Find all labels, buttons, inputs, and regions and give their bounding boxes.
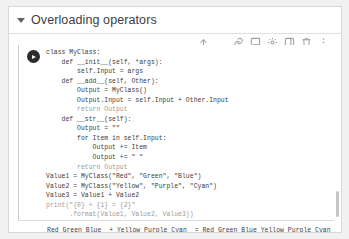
code-line: return Output xyxy=(46,163,331,173)
code-editor[interactable]: class MyClass: def __init__(self, *args)… xyxy=(46,48,331,220)
cell-output: Red Green Blue + Yellow Purple Cyan = Re… xyxy=(18,221,334,233)
code-line: def __str__(self): xyxy=(46,115,331,125)
colab-notebook-screenshot: Overloading operators xyxy=(0,0,349,239)
code-line: print("{0} + {1} = {2}" xyxy=(46,201,331,211)
code-line: Output.Input = self.Input + Other.Input xyxy=(46,96,331,106)
notebook-page-card: Overloading operators xyxy=(8,6,342,233)
code-line: return Output xyxy=(46,105,331,115)
code-cell[interactable]: class MyClass: def __init__(self, *args)… xyxy=(18,45,334,220)
cell-gutter-line xyxy=(18,45,19,220)
code-line: self.Input = args xyxy=(46,67,331,77)
code-line: def __init__(self, *args): xyxy=(46,58,331,68)
section-header[interactable]: Overloading operators xyxy=(9,7,342,33)
code-line: Output = "" xyxy=(46,124,331,134)
code-line: Output += Item xyxy=(46,143,331,153)
code-line: .format(Value1, Value2, Value3)) xyxy=(46,210,331,220)
vertical-scrollbar-thumb[interactable] xyxy=(336,191,339,217)
toolbar-spacer xyxy=(215,42,227,43)
code-line: Value2 = MyClass("Yellow", "Purple", "Cy… xyxy=(46,182,331,192)
run-cell-button[interactable] xyxy=(27,50,40,63)
code-line: class MyClass: xyxy=(46,48,331,58)
code-line: Value1 = MyClass("Red", "Green", "Blue") xyxy=(46,172,331,182)
section-title: Overloading operators xyxy=(31,13,157,27)
output-text: Red Green Blue + Yellow Purple Cyan = Re… xyxy=(47,226,331,233)
caret-down-icon[interactable] xyxy=(16,15,26,25)
code-line: for Item in self.Input: xyxy=(46,134,331,144)
code-line: def __add__(self, Other): xyxy=(46,77,331,87)
code-line: Value3 = Value1 + Value2 xyxy=(46,191,331,201)
code-line: Output = MyClass() xyxy=(46,86,331,96)
code-line: Output += " " xyxy=(46,153,331,163)
